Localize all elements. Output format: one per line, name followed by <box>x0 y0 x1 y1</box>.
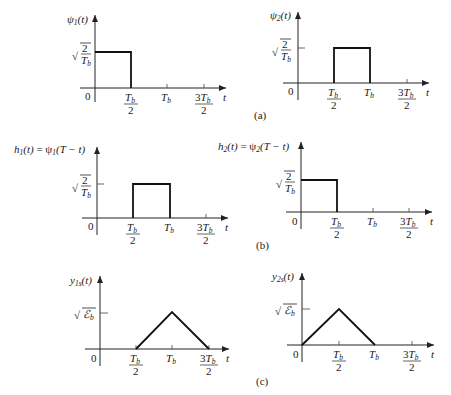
svg-text:Tb: Tb <box>331 215 341 229</box>
svg-text:3Tb: 3Tb <box>403 348 419 362</box>
y-label: y2s(t) <box>271 270 294 284</box>
signal-rect <box>133 184 170 218</box>
caption-c: (c) <box>256 375 269 388</box>
level-label: √ ℰb <box>74 308 96 322</box>
origin-label: 0 <box>91 352 97 364</box>
svg-text:2: 2 <box>331 99 337 111</box>
origin-label: 0 <box>292 215 298 227</box>
origin-label: 0 <box>85 90 91 102</box>
signal-triangle <box>302 309 375 345</box>
svg-text:2: 2 <box>201 104 207 116</box>
tick-label-3tb2: 3Tb 2 <box>200 352 218 377</box>
y-label: h2(t) = ψ2(T − t) <box>218 140 290 154</box>
svg-text:2: 2 <box>404 99 410 111</box>
svg-text:Tb: Tb <box>127 221 137 235</box>
svg-text:2: 2 <box>406 228 412 240</box>
signal-rect <box>334 48 370 83</box>
svg-text:ℰb: ℰb <box>83 308 94 322</box>
svg-text:3Tb: 3Tb <box>398 86 414 100</box>
svg-text:3Tb: 3Tb <box>197 221 213 235</box>
graph-psi2: ψ2(t) √ 2 Tb 0 Tb 2 Tb 3Tb 2 t <box>270 9 430 111</box>
svg-text:2: 2 <box>82 42 88 54</box>
tick-label-tb2: Tb 2 <box>126 221 140 246</box>
svg-text:√: √ <box>275 305 282 317</box>
tick-label-tb: Tb <box>369 348 379 362</box>
svg-text:√: √ <box>276 178 283 190</box>
level-label: √ 2 Tb <box>272 38 291 64</box>
level-label: √ 2 Tb <box>72 42 91 68</box>
signal-rect <box>95 52 131 88</box>
svg-text:2: 2 <box>203 234 209 246</box>
svg-text:3Tb: 3Tb <box>400 215 416 229</box>
svg-text:2: 2 <box>82 174 88 186</box>
tick-label-3tb2: 3Tb 2 <box>403 348 421 373</box>
t-label: t <box>223 91 227 103</box>
t-label: t <box>225 221 229 233</box>
svg-text:Tb: Tb <box>130 352 140 366</box>
graph-y1s: y1s(t) √ ℰb 0 Tb 2 Tb 3Tb 2 t <box>69 274 230 377</box>
svg-text:3Tb: 3Tb <box>195 91 211 105</box>
svg-text:Tb: Tb <box>125 91 135 105</box>
origin-label: 0 <box>293 348 299 360</box>
y-label: h1(t) = ψ1(T − t) <box>14 143 86 157</box>
graph-h2: h2(t) = ψ2(T − t) √ 2 Tb 0 Tb 2 Tb 3Tb 2… <box>218 140 434 240</box>
tick-label-tb2: Tb 2 <box>332 348 346 373</box>
tick-label-tb: Tb <box>161 91 171 105</box>
origin-label: 0 <box>288 85 294 97</box>
svg-text:2: 2 <box>334 228 340 240</box>
tick-label-3tb2: 3Tb 2 <box>398 86 416 111</box>
t-label: t <box>226 352 230 364</box>
t-label: t <box>431 348 435 360</box>
t-label: t <box>426 86 430 98</box>
tick-label-3tb2: 3Tb 2 <box>197 221 215 246</box>
caption-b: (b) <box>256 239 269 252</box>
svg-text:2: 2 <box>409 361 415 373</box>
svg-text:3Tb: 3Tb <box>200 352 216 366</box>
tick-label-3tb2: 3Tb 2 <box>400 215 418 240</box>
svg-text:Tb: Tb <box>281 50 291 64</box>
signal-rect <box>301 180 337 212</box>
y-label: y1s(t) <box>69 274 92 288</box>
tick-label-tb2: Tb 2 <box>330 215 344 240</box>
tick-label-tb: Tb <box>164 221 174 235</box>
y-label: ψ1(t) <box>67 13 88 27</box>
svg-text:√: √ <box>74 309 81 321</box>
level-label: √ 2 Tb <box>276 170 295 196</box>
svg-text:Tb: Tb <box>328 86 338 100</box>
caption-a: (a) <box>254 109 267 122</box>
svg-text:√: √ <box>72 182 79 194</box>
y-label: ψ2(t) <box>270 9 291 23</box>
graph-y2s: y2s(t) √ ℰb 0 Tb 2 Tb 3Tb 2 t <box>271 270 435 373</box>
svg-text:2: 2 <box>128 104 134 116</box>
svg-text:Tb: Tb <box>333 348 343 362</box>
svg-text:2: 2 <box>130 234 136 246</box>
svg-text:2: 2 <box>286 170 292 182</box>
tick-label-tb2: Tb 2 <box>124 91 138 116</box>
level-label: √ ℰb <box>275 304 297 318</box>
tick-label-tb2: Tb 2 <box>327 86 341 111</box>
svg-text:√: √ <box>272 46 279 58</box>
tick-label-tb: Tb <box>367 215 377 229</box>
level-label: √ 2 Tb <box>72 174 91 200</box>
t-label: t <box>430 215 434 227</box>
svg-text:√: √ <box>72 50 79 62</box>
svg-text:Tb: Tb <box>81 54 91 68</box>
svg-text:2: 2 <box>336 361 342 373</box>
svg-text:Tb: Tb <box>285 182 295 196</box>
svg-text:2: 2 <box>133 365 139 377</box>
tick-label-3tb2: 3Tb 2 <box>195 91 213 116</box>
tick-label-tb: Tb <box>166 352 176 366</box>
tick-label-tb: Tb <box>364 86 374 100</box>
svg-text:2: 2 <box>282 38 288 50</box>
graph-h1: h1(t) = ψ1(T − t) √ 2 Tb 0 Tb 2 Tb 3Tb 2… <box>14 143 229 246</box>
signal-triangle <box>136 312 209 349</box>
svg-text:ℰb: ℰb <box>284 304 295 318</box>
svg-text:Tb: Tb <box>81 186 91 200</box>
origin-label: 0 <box>88 220 94 232</box>
figure-canvas: ψ1(t) √ 2 Tb 0 Tb 2 Tb 3Tb 2 t ψ2(t) √ <box>0 0 451 395</box>
svg-text:2: 2 <box>206 365 212 377</box>
tick-label-tb2: Tb 2 <box>129 352 143 377</box>
graph-psi1: ψ1(t) √ 2 Tb 0 Tb 2 Tb 3Tb 2 t <box>67 13 227 116</box>
